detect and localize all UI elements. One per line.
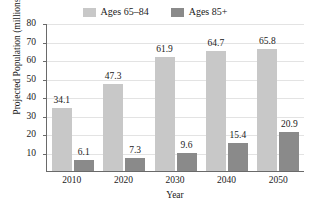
y-axis-tick-label: 40	[27, 93, 37, 103]
bar: 34.1	[52, 108, 72, 171]
y-axis-tick-label: 10	[27, 149, 37, 159]
x-axis-tick-label: 2050	[252, 175, 304, 188]
y-axis-tick-labels: 1020304050607080	[0, 24, 42, 172]
y-axis-tick-label: 20	[27, 130, 37, 140]
bar-group: 64.715.4	[201, 24, 252, 171]
bar: 20.9	[279, 132, 299, 171]
bar: 15.4	[228, 143, 248, 171]
bar-group: 34.16.1	[47, 24, 98, 171]
bar-value-label: 61.9	[156, 44, 173, 54]
bar-value-label: 34.1	[53, 95, 70, 105]
y-axis-tick-label: 60	[27, 56, 37, 66]
bar: 6.1	[74, 160, 94, 171]
chart-legend: Ages 65–84 Ages 85+	[0, 4, 310, 20]
bar-value-label: 6.1	[78, 147, 90, 157]
x-axis-tick-label: 2040	[201, 175, 253, 188]
plot-area: 34.16.147.37.361.99.664.715.465.820.9	[46, 24, 304, 172]
bar-value-label: 15.4	[230, 130, 247, 140]
bar: 65.8	[257, 49, 277, 171]
legend-item-ages-65-84: Ages 65–84	[83, 7, 149, 17]
bar-groups: 34.16.147.37.361.99.664.715.465.820.9	[47, 24, 304, 171]
x-axis-tick-label: 2020	[98, 175, 150, 188]
y-axis-tick-label: 30	[27, 112, 37, 122]
bar-value-label: 47.3	[105, 71, 122, 81]
bar-group: 47.37.3	[98, 24, 149, 171]
bar-value-label: 20.9	[281, 119, 298, 129]
bar-value-label: 65.8	[259, 36, 276, 46]
bar: 61.9	[155, 57, 175, 172]
legend-label-ages-65-84: Ages 65–84	[101, 7, 149, 17]
bar: 64.7	[206, 51, 226, 171]
bar: 9.6	[177, 153, 197, 171]
bar-value-label: 64.7	[208, 38, 225, 48]
y-axis-tick-label: 80	[27, 19, 37, 29]
y-axis-tick-label: 70	[27, 38, 37, 48]
legend-label-ages-85-plus: Ages 85+	[189, 7, 228, 17]
legend-swatch-icon-ages-65-84	[83, 8, 96, 17]
bar: 7.3	[125, 158, 145, 172]
x-axis-tick-label: 2030	[149, 175, 201, 188]
x-axis-title: Year	[46, 190, 304, 200]
bar-chart: Ages 65–84 Ages 85+ Projected Population…	[0, 0, 310, 214]
legend-item-ages-85-plus: Ages 85+	[171, 7, 228, 17]
bar-group: 61.99.6	[150, 24, 201, 171]
bar-value-label: 9.6	[181, 140, 193, 150]
x-axis-tick-label: 2010	[46, 175, 98, 188]
legend-swatch-icon-ages-85-plus	[171, 8, 184, 17]
bar-value-label: 7.3	[129, 145, 141, 155]
y-axis-tick-label: 50	[27, 75, 37, 85]
bar: 47.3	[103, 84, 123, 172]
x-axis-tick-labels: 20102020203020402050	[46, 175, 304, 188]
bar-group: 65.820.9	[253, 24, 304, 171]
